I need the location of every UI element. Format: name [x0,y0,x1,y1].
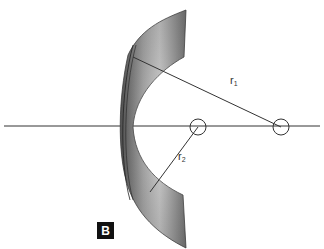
label-r1: r1 [230,75,238,87]
lens-diagram: r1 r2 B [0,0,324,249]
panel-label-badge: B [97,222,114,239]
label-r2: r2 [178,151,186,163]
radius-r1-line [133,57,281,127]
meniscus-lens [120,10,186,248]
radius-r2-line [150,127,198,192]
diagram-graphic [0,0,324,249]
